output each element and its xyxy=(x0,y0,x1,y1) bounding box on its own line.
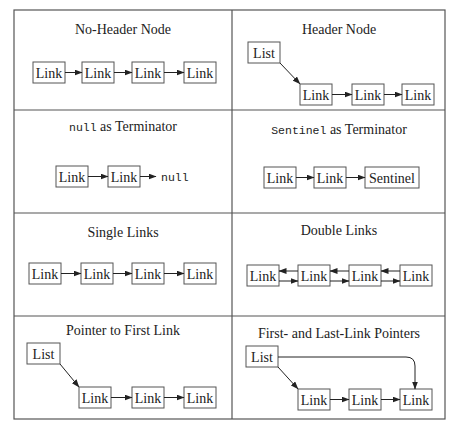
no-header-node-0: Link xyxy=(33,62,65,83)
null-term-node-1-label: Link xyxy=(111,170,137,185)
first-ptr-node-2-label: Link xyxy=(187,391,213,406)
single-node-1-label: Link xyxy=(84,267,110,282)
panel-title-single: Single Links xyxy=(87,225,158,240)
first-last-node-2: Link xyxy=(400,389,432,410)
title-text: as Terminator xyxy=(97,119,178,134)
header-node-2-label: Link xyxy=(405,88,431,103)
double-node-1: Link xyxy=(298,265,330,286)
title-text: as Terminator xyxy=(326,122,407,137)
first-ptr-list-node-label: List xyxy=(33,347,55,362)
panel-title-no-header: No-Header Node xyxy=(75,22,171,37)
no-header-node-2: Link xyxy=(132,62,164,83)
first-ptr-node-1-label: Link xyxy=(135,391,161,406)
header-head-arrow xyxy=(280,63,300,84)
single-node-1: Link xyxy=(81,263,113,284)
null-terminator: null xyxy=(161,171,189,184)
null-term-node-1: Link xyxy=(108,166,140,187)
panel-title-null-term: null as Terminator xyxy=(69,119,177,134)
linked-list-diagram: No-Header NodeLinkLinkLinkLinkHeader Nod… xyxy=(0,0,459,433)
no-header-node-0-label: Link xyxy=(36,66,62,81)
title-code: null xyxy=(69,121,97,134)
single-node-2-label: Link xyxy=(135,267,161,282)
sentinel-term-node-0: Link xyxy=(264,167,296,188)
outer-frame xyxy=(14,10,445,419)
title-code: Sentinel xyxy=(271,124,326,137)
double-node-0-label: Link xyxy=(250,269,276,284)
header-node-0-label: Link xyxy=(303,88,329,103)
header-node-0: Link xyxy=(300,84,332,105)
first-last-list-node: List xyxy=(246,346,278,367)
no-header-node-2-label: Link xyxy=(135,66,161,81)
sentinel-term-node-0-label: Link xyxy=(267,171,293,186)
header-list-node-label: List xyxy=(253,46,275,61)
first-last-node-2-label: Link xyxy=(403,393,429,408)
sentinel-term-node-2: Sentinel xyxy=(365,167,419,188)
double-node-3-label: Link xyxy=(403,269,429,284)
first-last-node-0-label: Link xyxy=(301,393,327,408)
single-node-0: Link xyxy=(29,263,61,284)
panel-title-first-last: First- and Last-Link Pointers xyxy=(258,326,420,341)
header-list-node: List xyxy=(248,42,280,63)
single-node-0-label: Link xyxy=(32,267,58,282)
sentinel-term-node-1-label: Link xyxy=(317,171,343,186)
double-node-2-label: Link xyxy=(352,269,378,284)
double-node-0: Link xyxy=(247,265,279,286)
first-ptr-node-0-label: Link xyxy=(82,391,108,406)
no-header-node-3-label: Link xyxy=(187,66,213,81)
first-ptr-node-2: Link xyxy=(184,387,216,408)
panel-title-sentinel-term: Sentinel as Terminator xyxy=(271,122,407,137)
header-node-2: Link xyxy=(402,84,434,105)
no-header-node-1: Link xyxy=(82,62,114,83)
first-ptr-node-0: Link xyxy=(79,387,111,408)
header-node-1-label: Link xyxy=(355,88,381,103)
first-last-head-arrow xyxy=(278,367,298,389)
double-node-3: Link xyxy=(400,265,432,286)
first-last-node-1-label: Link xyxy=(352,393,378,408)
first-ptr-node-1: Link xyxy=(132,387,164,408)
panel-title-first-ptr: Pointer to First Link xyxy=(66,323,180,338)
header-node-1: Link xyxy=(352,84,384,105)
single-node-2: Link xyxy=(132,263,164,284)
double-node-1-label: Link xyxy=(301,269,327,284)
no-header-node-1-label: Link xyxy=(85,66,111,81)
first-ptr-list-node: List xyxy=(27,343,60,364)
sentinel-term-node-2-label: Sentinel xyxy=(369,171,415,186)
single-node-3: Link xyxy=(184,263,216,284)
null-term-node-0-label: Link xyxy=(59,170,85,185)
first-last-node-0: Link xyxy=(298,389,330,410)
sentinel-term-node-1: Link xyxy=(314,167,346,188)
first-last-list-node-label: List xyxy=(251,350,273,365)
no-header-node-3: Link xyxy=(184,62,216,83)
first-ptr-head-arrow xyxy=(60,364,79,387)
double-node-2: Link xyxy=(349,265,381,286)
single-node-3-label: Link xyxy=(187,267,213,282)
panel-title-double: Double Links xyxy=(301,223,378,238)
panel-title-header: Header Node xyxy=(302,22,376,37)
null-term-node-0: Link xyxy=(56,166,88,187)
first-last-node-1: Link xyxy=(349,389,381,410)
first-last-tail-arrow xyxy=(278,357,415,389)
